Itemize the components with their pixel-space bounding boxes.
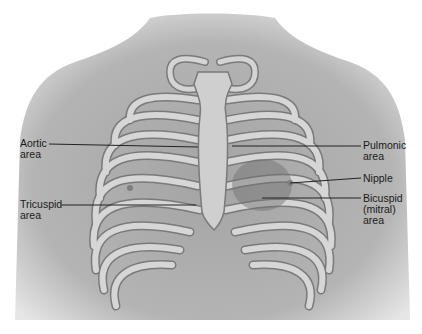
label-tricuspid-area: Tricuspid area	[20, 199, 62, 221]
chest-diagram: Aortic area Tricuspid area Pulmonic area…	[0, 0, 422, 334]
left-nipple	[127, 185, 133, 191]
heart-shadow	[232, 159, 292, 211]
label-bicuspid-area: Bicuspid (mitral) area	[363, 193, 403, 226]
label-nipple: Nipple	[363, 173, 393, 184]
label-pulmonic-area: Pulmonic area	[363, 140, 406, 162]
label-aortic-area: Aortic area	[20, 138, 47, 160]
torso-illustration	[0, 0, 422, 334]
